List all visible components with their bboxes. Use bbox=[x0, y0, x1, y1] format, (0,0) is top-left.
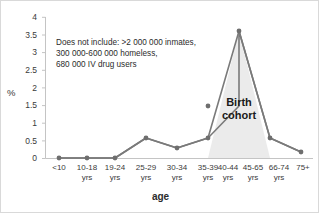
y-tick-label: 4 bbox=[15, 12, 37, 22]
y-axis-label: % bbox=[7, 87, 15, 98]
exclusions-note: Does not include: >2 000 000 inmates, 30… bbox=[56, 37, 246, 70]
chart-container: 4 3.5 3 2.5 2 1.5 1 0.5 0 % <10 10-18 yr… bbox=[0, 0, 319, 213]
data-point-marker bbox=[57, 156, 62, 161]
x-tick-label-19-24: 19-24 yrs bbox=[99, 163, 131, 183]
y-tick-label: 0.5 bbox=[15, 136, 37, 146]
y-tick-label: 1.5 bbox=[15, 100, 37, 110]
birth-cohort-label: Birth cohort bbox=[208, 96, 270, 122]
x-tick-label-75plus: 75+ bbox=[287, 163, 319, 173]
data-point-marker bbox=[299, 150, 304, 155]
data-point-marker bbox=[144, 136, 149, 141]
x-tick-label-25-29: 25-29 yrs bbox=[130, 163, 162, 183]
y-tick-label: 0 bbox=[15, 153, 37, 163]
x-tick-label-30-34: 30-34 yrs bbox=[161, 163, 193, 183]
y-tick-label: 1 bbox=[15, 118, 37, 128]
data-point-marker bbox=[175, 146, 180, 151]
data-point-marker bbox=[237, 29, 242, 34]
y-axis-ticks bbox=[42, 17, 46, 158]
data-point-marker bbox=[268, 136, 273, 141]
y-tick-label: 3 bbox=[15, 47, 37, 57]
data-point-marker bbox=[85, 156, 90, 161]
data-point-marker bbox=[113, 156, 118, 161]
y-tick-label: 2 bbox=[15, 83, 37, 93]
data-series-line-tail bbox=[270, 138, 301, 152]
data-series-line-base bbox=[59, 138, 208, 158]
data-point-marker bbox=[206, 136, 211, 141]
y-tick-label: 2.5 bbox=[15, 65, 37, 75]
x-axis-label: age bbox=[1, 191, 319, 202]
y-tick-label: 3.5 bbox=[15, 30, 37, 40]
